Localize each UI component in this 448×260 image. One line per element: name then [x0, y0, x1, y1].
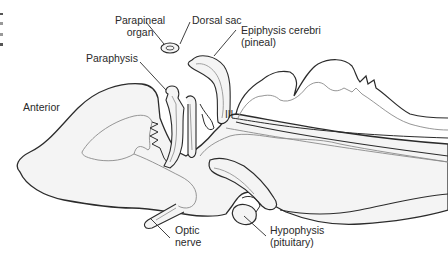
label-paraphysis: Paraphysis [86, 52, 138, 64]
leader-epiphysis [214, 30, 236, 56]
label-optic-line2: nerve [175, 236, 201, 248]
label-parapineal-line1: Parapineal [115, 14, 165, 26]
parapineal-organ-ring [161, 43, 179, 53]
dorsal-sac-stalk [200, 104, 214, 130]
label-epiphysis-line1: Epiphysis cerebri [241, 24, 321, 36]
label-third-ventricle: III [225, 109, 233, 121]
label-optic-line1: Optic [175, 224, 201, 236]
label-hypophysis: Hypophysis (pituitary) [270, 224, 324, 248]
hypophysis-structure [232, 205, 256, 225]
label-hypophysis-line2: (pituitary) [270, 236, 324, 248]
label-parapineal-line2: organ [115, 26, 165, 38]
leader-dorsal-sac [180, 22, 190, 44]
brain-section-illustration [0, 0, 448, 260]
label-optic-nerve: Optic nerve [175, 224, 201, 248]
label-hypophysis-line1: Hypophysis [270, 224, 324, 236]
label-epiphysis-cerebri: Epiphysis cerebri (pineal) [241, 24, 321, 48]
label-epiphysis-line2: (pineal) [241, 36, 321, 48]
label-anterior: Anterior [23, 101, 60, 113]
diagram-canvas: Parapineal organ Dorsal sac Epiphysis ce… [0, 0, 448, 260]
label-dorsal-sac: Dorsal sac [192, 14, 242, 26]
label-parapineal-organ: Parapineal organ [115, 14, 165, 38]
brain-outline [17, 84, 448, 225]
